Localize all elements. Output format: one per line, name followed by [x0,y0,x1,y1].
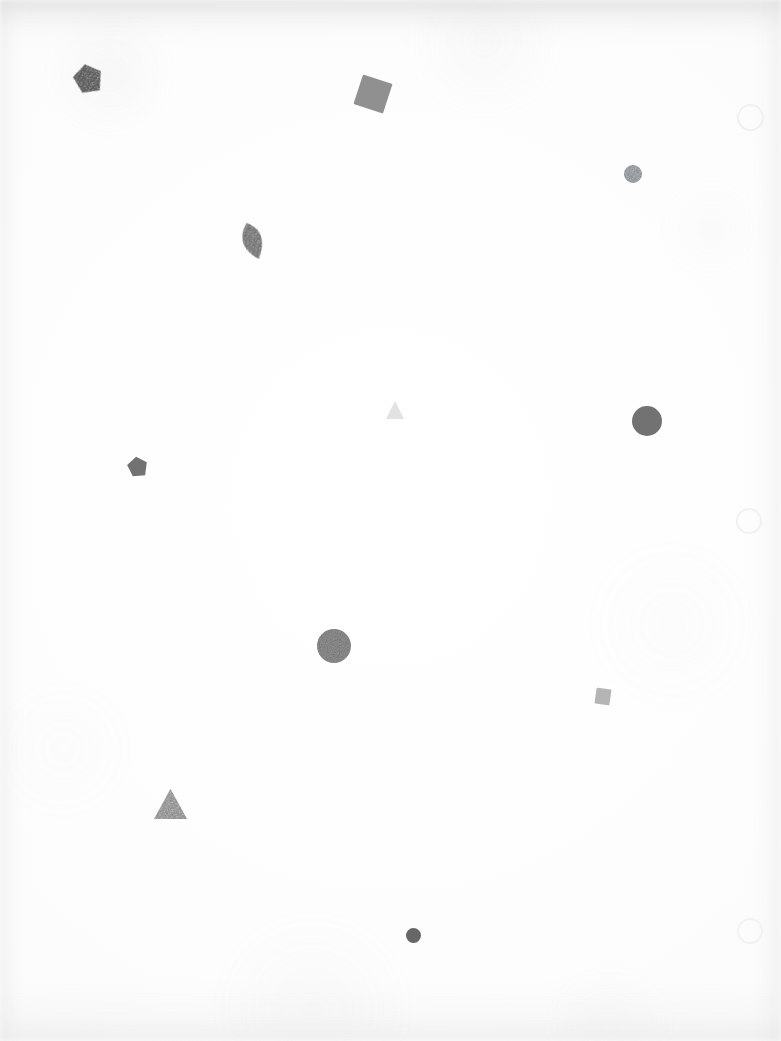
vignette-left-edge [0,0,28,1041]
pentagon-glyph [126,455,148,477]
circle-shape [317,629,351,663]
pentagon-glyph [71,61,105,95]
pentagon-shape [70,60,106,98]
circle-glyph [317,629,351,663]
triangle-shape [386,401,404,419]
circle-outline-glyph [737,509,761,533]
circle-shape [632,406,662,436]
square-shape [594,687,612,706]
circle-shape [624,165,642,183]
paper-grain-overlay [0,0,781,1041]
circle-glyph [624,165,642,183]
vignette-top-edge [0,0,781,46]
circle-glyph [632,406,662,436]
circle-shape [406,928,421,943]
circle-outline-shape [736,508,762,534]
circle-outline-glyph [738,105,763,130]
triangle-shape [154,789,187,819]
circle-outline-glyph [738,919,762,943]
square-glyph [594,688,611,706]
circle-glyph [406,928,421,943]
triangle-glyph [154,789,187,819]
pentagon-shape [126,455,150,480]
circle-outline-shape [737,918,763,944]
shape-canvas [0,0,781,1041]
vignette-bottom-edge [0,981,781,1041]
circle-outline-shape [737,104,764,131]
triangle-glyph [386,401,404,419]
